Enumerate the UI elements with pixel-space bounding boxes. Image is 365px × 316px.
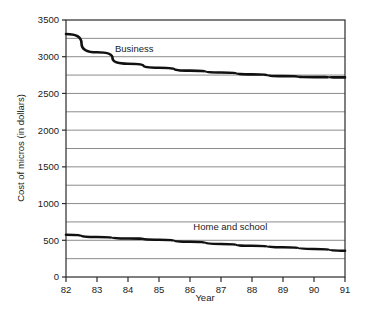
y-axis-tick-label: 1000 bbox=[38, 198, 59, 209]
series-label: Home and school bbox=[193, 221, 267, 232]
x-axis-tick-label: 83 bbox=[92, 284, 103, 295]
x-axis-tick-label: 84 bbox=[123, 284, 134, 295]
x-axis-tick-label: 86 bbox=[185, 284, 196, 295]
y-axis-tick-label: 2000 bbox=[38, 125, 59, 136]
x-axis-tick-label: 89 bbox=[278, 284, 289, 295]
line-chart: 0500100015002000250030003500 82838485868… bbox=[0, 0, 365, 316]
x-axis-tick-label: 87 bbox=[216, 284, 227, 295]
chart-container: 0500100015002000250030003500 82838485868… bbox=[0, 0, 365, 316]
y-axis-tick-label: 0 bbox=[54, 271, 59, 282]
y-axis-tick-label: 3000 bbox=[38, 51, 59, 62]
x-axis-tick-label: 90 bbox=[309, 284, 320, 295]
y-axis-tick-label: 2500 bbox=[38, 88, 59, 99]
x-axis-tick-label: 91 bbox=[340, 284, 351, 295]
x-axis-tick-label: 88 bbox=[247, 284, 258, 295]
chart-background bbox=[0, 0, 365, 316]
y-axis-tick-label: 1500 bbox=[38, 161, 59, 172]
y-axis-tick-label: 3500 bbox=[38, 14, 59, 25]
y-axis-title: Cost of micros (in dollars) bbox=[15, 94, 26, 202]
x-axis-tick-label: 82 bbox=[61, 284, 72, 295]
x-axis-tick-label: 85 bbox=[154, 284, 165, 295]
x-axis-title: Year bbox=[195, 292, 214, 303]
series-label: Business bbox=[115, 43, 154, 54]
y-axis-tick-label: 500 bbox=[43, 235, 59, 246]
